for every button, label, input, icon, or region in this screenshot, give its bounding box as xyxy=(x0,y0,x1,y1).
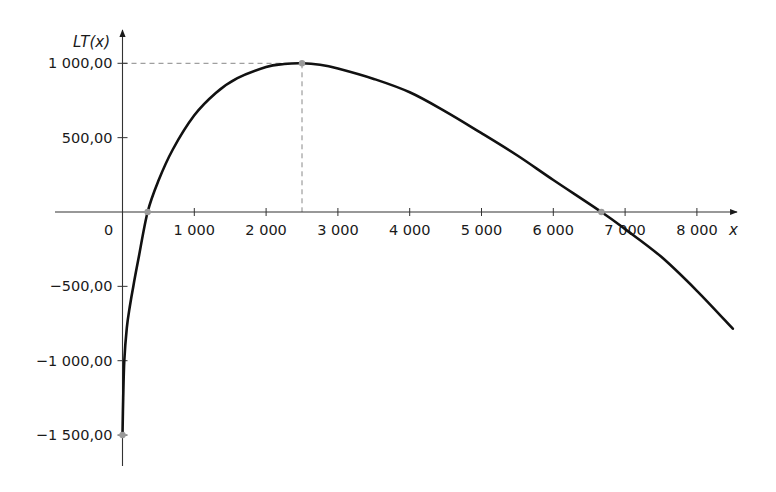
x-tick-label: 1 000 xyxy=(174,222,216,238)
x-tick-label: 3 000 xyxy=(317,222,359,238)
x-tick-label: 2 000 xyxy=(245,222,287,238)
marked-point xyxy=(144,209,150,215)
dashed-guides xyxy=(123,63,303,212)
x-tick-label: 5 000 xyxy=(461,222,503,238)
lt-curve xyxy=(123,63,733,435)
x-axis-title: x xyxy=(728,221,738,239)
x-tick-label: 6 000 xyxy=(533,222,575,238)
y-tick-label: 1 000,00 xyxy=(48,55,113,71)
y-tick-label: 500,00 xyxy=(62,130,113,146)
x-tick-label: 4 000 xyxy=(389,222,431,238)
y-tick-label: −500,00 xyxy=(50,278,113,294)
y-tick-label: −1 500,00 xyxy=(36,427,113,443)
marked-point xyxy=(598,209,604,215)
line-chart: 01 0002 0003 0004 0005 0006 0007 0008 00… xyxy=(0,0,776,492)
x-tick-label: 0 xyxy=(104,222,113,238)
y-axis-ticks: 1 000,00500,00−500,00−1 000,00−1 500,00 xyxy=(36,55,128,443)
y-tick-label: −1 000,00 xyxy=(36,353,113,369)
marked-point xyxy=(119,432,125,438)
axes xyxy=(55,30,737,466)
y-axis-title: LT(x) xyxy=(73,33,110,51)
marked-point xyxy=(299,60,305,66)
x-tick-label: 8 000 xyxy=(676,222,718,238)
